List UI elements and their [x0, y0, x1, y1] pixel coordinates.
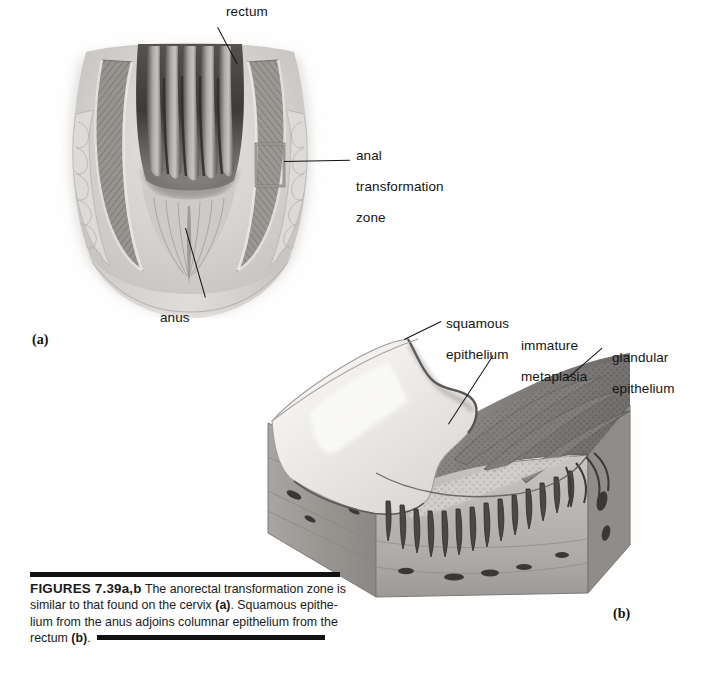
- label-anus: anus: [160, 310, 190, 326]
- label-atz-line-3: zone: [356, 210, 444, 226]
- caption-text: FIGURES 7.39a,b The anorectal transforma…: [30, 581, 348, 647]
- caption-ref-a: (a): [215, 598, 230, 612]
- label-immature-metaplasia: immature metaplasia: [521, 322, 587, 400]
- label-metaplasia-line-1: immature: [521, 338, 587, 354]
- panel-b-mark: (b): [613, 606, 630, 622]
- label-metaplasia-line-2: metaplasia: [521, 369, 587, 385]
- label-glandular-line-1: glandular: [612, 350, 675, 366]
- figure-page: rectum anus anal transformation zone (a): [0, 0, 701, 681]
- caption-sentence-4a: rectum: [30, 631, 71, 645]
- caption-rule-top: [30, 572, 340, 577]
- label-atz-line-1: anal: [356, 148, 444, 164]
- label-anal-transformation-zone: anal transformation zone: [356, 132, 444, 241]
- caption-ref-b: (b): [71, 631, 87, 645]
- caption-rule-bottom: [97, 635, 325, 640]
- panel-a-illustration: [30, 18, 350, 318]
- label-atz-line-2: transformation: [356, 179, 444, 195]
- label-rectum: rectum: [226, 4, 268, 20]
- caption-sentence-1: The anorectal transformation zone: [145, 582, 334, 596]
- label-glandular-epithelium: glandular epithelium: [612, 334, 675, 412]
- caption-figure-number: FIGURES 7.39a,b: [30, 581, 142, 596]
- label-squamous-line-1: squamous: [446, 316, 509, 332]
- panel-a-mark: (a): [32, 332, 48, 348]
- rectal-lumen: [136, 44, 244, 200]
- caption-sentence-4c: .: [87, 631, 90, 645]
- label-glandular-line-2: epithelium: [612, 381, 675, 397]
- label-squamous-epithelium: squamous epithelium: [446, 300, 509, 378]
- caption-sentence-2c: . Squamous epithe-: [230, 598, 337, 612]
- anorectal-section-svg: [30, 18, 350, 318]
- figure-caption: FIGURES 7.39a,b The anorectal transforma…: [22, 572, 358, 647]
- caption-sentence-3: lium from the anus adjoins columnar epit…: [30, 615, 338, 629]
- label-squamous-line-2: epithelium: [446, 347, 509, 363]
